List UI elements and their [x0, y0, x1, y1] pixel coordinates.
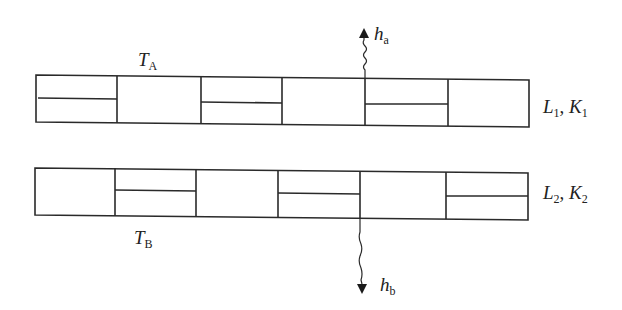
strip-bottom-cell-2-split [115, 190, 196, 191]
label-h-b: hb [380, 274, 396, 298]
strip-bottom [35, 168, 528, 220]
arrow-h-b [357, 218, 367, 294]
label-l1-k1: L1, K1 [542, 96, 588, 120]
arrow-down-icon [357, 284, 367, 294]
wavy-line-h-b [359, 218, 362, 284]
strip-top [36, 75, 529, 127]
strip-top-cell-1-split [38, 98, 117, 99]
strip-top-cell-3-split [201, 102, 282, 103]
label-l2-k2: L2, K2 [542, 182, 588, 206]
label-t-b: TB [134, 227, 153, 251]
label-t-a: TA [138, 49, 158, 73]
strip-bottom-cell-4-split [278, 193, 360, 194]
layered-strips-diagram: TA TB L1, K1 L2, K2 ha hb [0, 0, 622, 310]
wavy-line-h-a [363, 38, 366, 78]
label-h-a: ha [374, 23, 390, 47]
strip-bottom-outline [35, 168, 528, 220]
arrow-up-icon [359, 28, 369, 38]
arrow-h-a [359, 28, 369, 78]
